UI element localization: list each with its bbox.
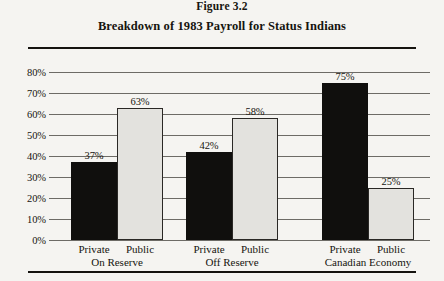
x-axis-series-label: Public — [232, 243, 278, 255]
gridline — [55, 72, 430, 73]
bar-public: 63% — [117, 108, 163, 240]
bar-public: 25% — [368, 188, 414, 241]
y-axis-label: 20% — [27, 193, 46, 204]
bar-private: 37% — [71, 162, 117, 240]
gridline — [55, 114, 430, 115]
x-axis-group-label: On Reserve — [71, 256, 163, 268]
bar-value-label: 75% — [336, 71, 355, 82]
figure-container: Figure 3.2 Breakdown of 1983 Payroll for… — [0, 0, 444, 281]
y-axis-tick — [49, 93, 55, 94]
y-axis-label: 60% — [27, 109, 46, 120]
bottom-divider-rule — [28, 271, 416, 273]
y-axis-label: 10% — [27, 214, 46, 225]
figure-number: Figure 3.2 — [0, 0, 444, 12]
bar-value-label: 37% — [85, 150, 104, 161]
y-axis-label: 40% — [27, 151, 46, 162]
x-axis-group-label: Canadian Economy — [322, 256, 414, 268]
x-axis-group-label: Off Reserve — [186, 256, 278, 268]
x-axis-series-label: Private — [186, 243, 232, 255]
y-axis-label: 50% — [27, 130, 46, 141]
top-divider-rule — [28, 47, 416, 49]
bar-private: 42% — [186, 152, 232, 240]
chart-plot-area: 0%10%20%30%40%50%60%70%80%37%63%42%58%75… — [55, 72, 430, 240]
bar-value-label: 58% — [246, 106, 265, 117]
bar-value-label: 63% — [131, 96, 150, 107]
y-axis-tick — [49, 177, 55, 178]
y-axis-tick — [49, 114, 55, 115]
figure-title: Breakdown of 1983 Payroll for Status Ind… — [0, 19, 444, 34]
y-axis-tick — [49, 156, 55, 157]
bar-public: 58% — [232, 118, 278, 240]
bar-private: 75% — [322, 83, 368, 241]
y-axis-label: 70% — [27, 88, 46, 99]
y-axis-tick — [49, 219, 55, 220]
y-axis-tick — [49, 72, 55, 73]
y-axis-tick — [49, 135, 55, 136]
bar-value-label: 42% — [200, 140, 219, 151]
y-axis-label: 0% — [32, 235, 46, 246]
y-axis-tick — [49, 240, 55, 241]
gridline — [55, 240, 430, 241]
gridline — [55, 93, 430, 94]
y-axis-tick — [49, 198, 55, 199]
x-axis-series-label: Public — [368, 243, 414, 255]
x-axis-series-label: Private — [71, 243, 117, 255]
x-axis-series-label: Private — [322, 243, 368, 255]
x-axis-series-label: Public — [117, 243, 163, 255]
y-axis-label: 80% — [27, 67, 46, 78]
bar-value-label: 25% — [382, 176, 401, 187]
y-axis-label: 30% — [27, 172, 46, 183]
